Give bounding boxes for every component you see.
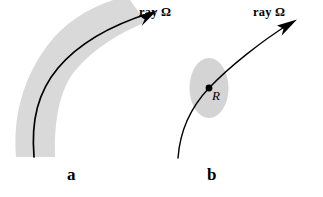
figure-graphics	[0, 0, 323, 197]
point-label-r: R	[212, 89, 220, 102]
figure-canvas: ray Ω ray Ω R a b	[0, 0, 323, 197]
ray-label-panel-a: ray Ω	[139, 6, 171, 19]
panel-caption-a: a	[67, 166, 76, 183]
ray-label-panel-b: ray Ω	[253, 6, 285, 19]
panel-caption-b: b	[207, 166, 216, 183]
